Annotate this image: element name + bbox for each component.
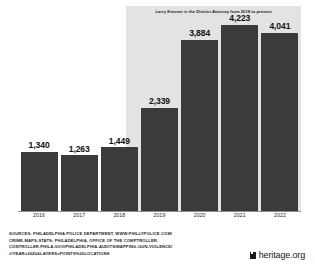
sources-line: CRIME-MAPS-STATS; PHILADELPHIA, OFFICE O…	[9, 238, 205, 245]
x-tick-2021: 2021	[221, 212, 258, 218]
bar-value-label: 4,041	[269, 21, 290, 31]
sources-line: CONTROLLER.PHILA.GOV/PHILADELPHIA-AUDITS…	[9, 244, 205, 251]
bar-value-label: 2,339	[149, 96, 170, 106]
x-tick-2018: 2018	[101, 212, 138, 218]
x-tick-2020: 2020	[181, 212, 218, 218]
bar-value-label: 1,340	[29, 140, 50, 150]
bar	[141, 108, 178, 211]
bar-column: 2,339	[141, 6, 178, 211]
bar-column: 1,340	[21, 6, 58, 211]
brand-name-label: heritage.org	[259, 250, 305, 260]
bar	[21, 152, 58, 211]
chart-page: Larry Krasner is the District Attorney f…	[0, 0, 315, 277]
bar	[221, 25, 258, 211]
x-tick-2022: 2022	[261, 212, 298, 218]
x-axis-tick-labels: 2016201720182019202020212022	[18, 212, 301, 218]
bar-column: 1,263	[61, 6, 98, 211]
bar	[61, 155, 98, 211]
sources-line: SOURCES: PHILADELPHIA POLICE DEPARTMENT,…	[9, 231, 205, 238]
bar-value-label: 3,884	[189, 28, 210, 38]
bar-series: 1,3401,2631,4492,3393,8844,2234,041	[18, 6, 301, 211]
x-tick-2019: 2019	[141, 212, 178, 218]
bar	[261, 33, 298, 211]
heritage-logo-mark-icon	[250, 252, 256, 259]
bar-value-label: 1,263	[69, 144, 90, 154]
heritage-brand: heritage.org	[250, 250, 305, 260]
sources-line: #/YEAR=2020&LAYERS=POINTS%20LOCATIONS	[9, 251, 205, 258]
bar-value-label: 4,223	[229, 13, 250, 23]
bar-column: 4,041	[261, 6, 298, 211]
x-tick-2016: 2016	[21, 212, 58, 218]
x-tick-2017: 2017	[61, 212, 98, 218]
bar-column: 3,884	[181, 6, 218, 211]
bar	[101, 147, 138, 211]
bar-column: 4,223	[221, 6, 258, 211]
bar-value-label: 1,449	[109, 136, 130, 146]
sources-note: SOURCES: PHILADELPHIA POLICE DEPARTMENT,…	[9, 231, 205, 258]
bar-column: 1,449	[101, 6, 138, 211]
plot-area: Larry Krasner is the District Attorney f…	[18, 6, 301, 211]
bar	[181, 40, 218, 211]
